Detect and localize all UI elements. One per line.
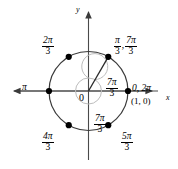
fraction-7pi-3-bottom: 7π 3 xyxy=(94,114,106,134)
point-pi xyxy=(46,88,52,94)
label-4pi-over-3: 4π 3 xyxy=(42,132,54,152)
unit-circle-figure: y x 0 2π 3 π 4π 3 π 3 , 7π 3 7π 3 xyxy=(0,0,178,169)
label-pi-over-3-and-7pi-over-3: π 3 , 7π 3 xyxy=(114,36,137,56)
point-0-2pi xyxy=(125,88,131,94)
fraction-5pi-3: 5π 3 xyxy=(121,132,133,152)
label-point-1-0: (1, 0) xyxy=(131,97,151,106)
fraction-pi-3: π 3 xyxy=(114,36,121,56)
fraction-7pi-3-top: 7π 3 xyxy=(125,36,137,56)
x-axis-label: x xyxy=(166,94,170,102)
label-bottom-7pi-over-3: 7π 3 xyxy=(94,114,106,134)
fraction-4pi-3: 4π 3 xyxy=(42,132,54,152)
y-axis-label: y xyxy=(76,6,80,14)
label-2pi-over-3: 2π 3 xyxy=(42,36,54,56)
fraction-2pi-3: 2π 3 xyxy=(42,36,54,56)
label-5pi-over-3: 5π 3 xyxy=(121,132,133,152)
point-5pi-over-3 xyxy=(105,122,111,128)
point-2pi-over-3 xyxy=(66,54,72,60)
origin-label: 0 xyxy=(79,93,84,103)
fraction-7pi-3-inner: 7π 3 xyxy=(106,78,118,98)
label-0-2pi: 0, 2π xyxy=(132,84,151,94)
point-4pi-over-3 xyxy=(66,122,72,128)
label-inner-7pi-over-3: 7π 3 xyxy=(106,78,118,98)
label-pi-left: π xyxy=(22,83,27,93)
point-pi-over-3 xyxy=(105,54,111,60)
inner-sweep-arc-tail xyxy=(82,54,108,80)
